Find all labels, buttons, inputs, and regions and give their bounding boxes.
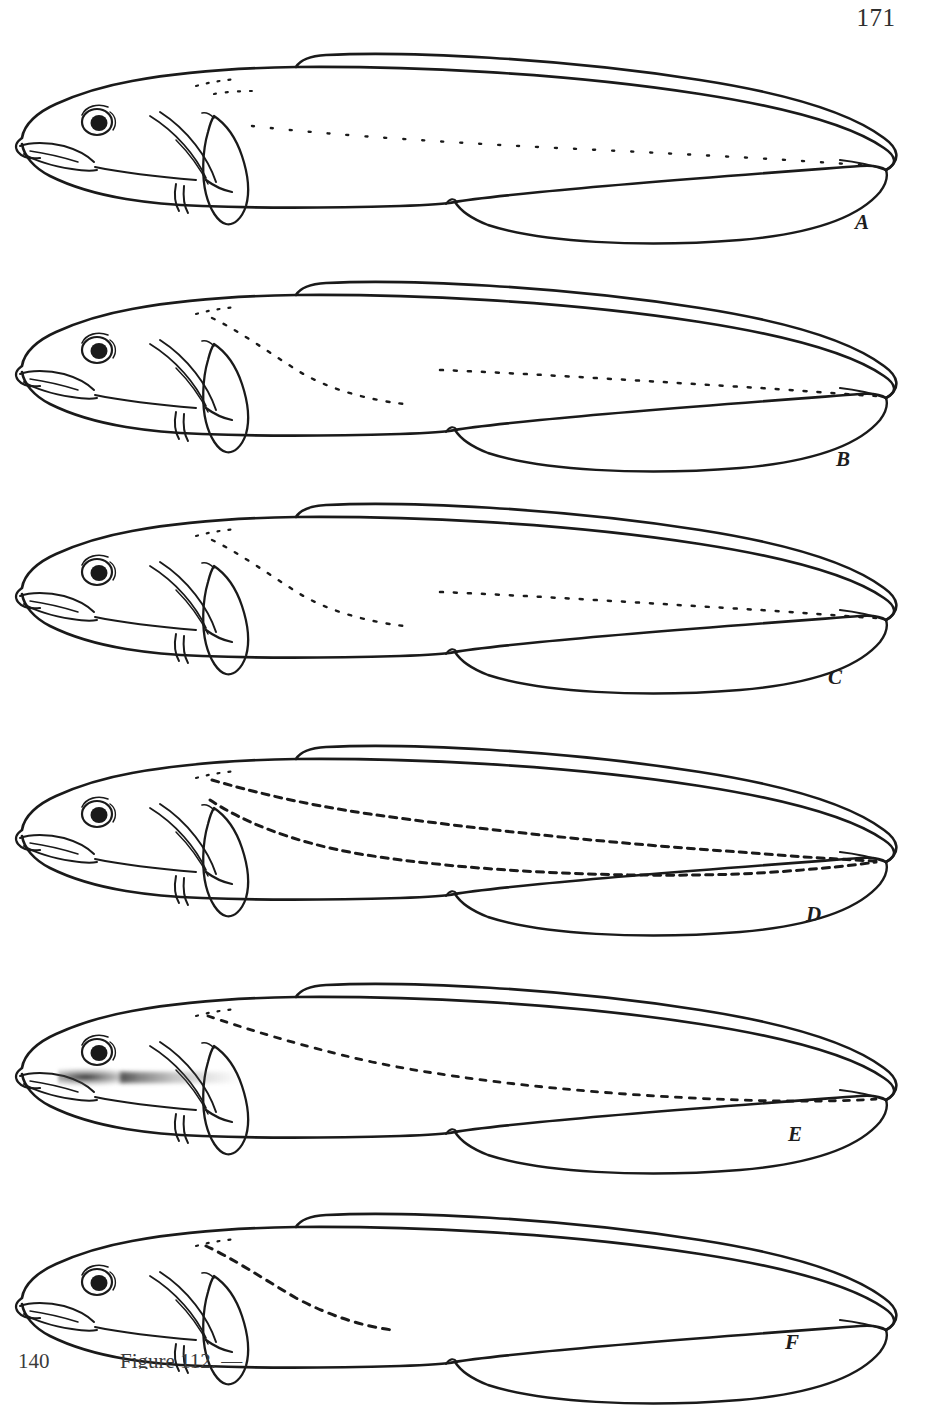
page-number-bottom: 140 bbox=[18, 1349, 50, 1369]
panel-label-a: A bbox=[855, 210, 869, 235]
figure-panel-d bbox=[0, 712, 946, 952]
caption-strip: 140 Figure 112. — bbox=[0, 1345, 946, 1369]
figure-panel-e bbox=[0, 950, 946, 1190]
figure-panel-a bbox=[0, 20, 946, 260]
figure-panel-c bbox=[0, 470, 946, 710]
panel-label-e: E bbox=[788, 1122, 802, 1147]
figure-caption: Figure 112. — bbox=[120, 1349, 242, 1369]
figure-panel-f bbox=[0, 1180, 946, 1409]
panel-label-c: C bbox=[828, 665, 842, 690]
panel-label-b: B bbox=[836, 447, 850, 472]
figure-panel-b bbox=[0, 248, 946, 488]
panel-label-d: D bbox=[806, 902, 821, 927]
